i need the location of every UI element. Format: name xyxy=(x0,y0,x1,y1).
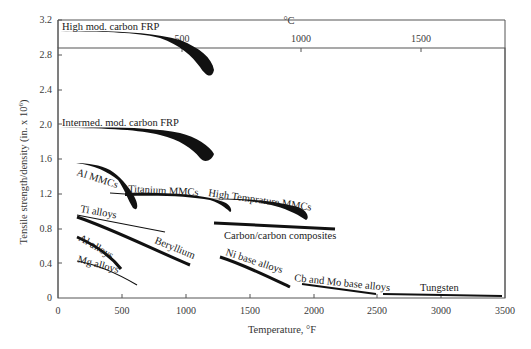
x-tick-label: 1000 xyxy=(176,305,196,316)
y-tick-label: 3.2 xyxy=(40,14,53,25)
series-label: High mod. carbon FRP xyxy=(62,21,160,32)
series-intermed-mod-carbon-frp: Intermed. mod. carbon FRP xyxy=(60,117,214,161)
y-tick-label: 2.4 xyxy=(40,84,53,95)
x-tick-label: 500 xyxy=(115,305,130,316)
x-tick-label: 3500 xyxy=(495,305,515,316)
plot-frame xyxy=(58,48,505,298)
series-label: High Temprature MMCs xyxy=(208,187,313,212)
series-carbon-carbon-composites: Carbon/carbon composites xyxy=(214,223,336,241)
x-axis-title: Temperature, °F xyxy=(248,324,316,335)
series-label: Mg alloys xyxy=(76,253,120,275)
x-tick-label: 3000 xyxy=(431,305,451,316)
series-label: Al MMCs xyxy=(75,166,119,190)
y-tick-label: 1.2 xyxy=(40,188,53,199)
y-axis: 0 0.4 0.8 1.2 1.6 2.0 2.4 2.8 3.2 Tensil… xyxy=(17,14,62,303)
x-axis: 0 500 1000 1500 2000 2500 3000 3500 Temp… xyxy=(56,294,516,335)
series-label: Tungsten xyxy=(420,282,459,293)
series-ni-base-alloys: Ni base alloys xyxy=(220,246,290,287)
series-label: Carbon/carbon composites xyxy=(224,230,336,241)
x-tick-label: 2000 xyxy=(304,305,324,316)
y-tick-label: 0 xyxy=(47,292,52,303)
chart: 500 1000 1500 °C 0 0.4 0.8 1.2 1.6 2.0 2… xyxy=(0,0,531,349)
x-tick-label: 2500 xyxy=(367,305,387,316)
y-tick-label: 0.8 xyxy=(40,223,53,234)
y-tick-label: 1.6 xyxy=(40,153,53,164)
y-axis-title: Tensile strength/density (in. x 106) xyxy=(17,99,30,244)
x-tick-label: 1500 xyxy=(240,305,260,316)
series-ti-alloys: Ti alloys xyxy=(77,203,165,232)
x-tick-label: 0 xyxy=(56,305,61,316)
y-tick-label: 2.8 xyxy=(40,49,53,60)
top-axis-celsius: 500 1000 1500 °C xyxy=(175,15,432,52)
y-tick-label: 0.4 xyxy=(40,258,53,269)
top-tick-label: 1000 xyxy=(291,33,311,44)
top-tick-label: 1500 xyxy=(411,33,431,44)
series-cb-mo-base-alloys: Cb and Mo base alloys xyxy=(294,272,391,294)
y-tick-label: 2.0 xyxy=(40,119,53,130)
series-label: Ti alloys xyxy=(80,203,118,220)
series-label: Intermed. mod. carbon FRP xyxy=(62,117,179,128)
series-tungsten: Tungsten xyxy=(383,282,502,296)
